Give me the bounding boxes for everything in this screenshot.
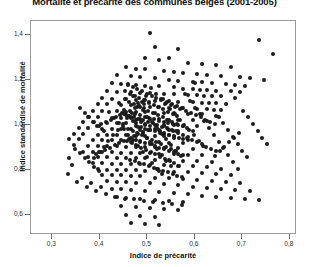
scatter-point: [200, 171, 204, 175]
scatter-point: [219, 94, 223, 98]
scatter-point: [86, 144, 90, 148]
scatter-point: [96, 102, 100, 106]
scatter-point: [148, 206, 152, 210]
scatter-point: [115, 168, 119, 172]
scatter-point: [110, 187, 114, 191]
scatter-point: [200, 101, 204, 105]
scatter-point: [262, 78, 266, 82]
scatter-point: [128, 92, 132, 96]
scatter-point: [100, 173, 104, 177]
scatter-point: [105, 168, 109, 172]
scatter-point: [233, 96, 237, 100]
scatter-point: [167, 176, 171, 180]
x-tick-label: 0,3: [39, 240, 63, 248]
scatter-point: [227, 140, 231, 144]
scatter-point: [189, 111, 193, 115]
scatter-point: [185, 136, 189, 140]
scatter-point: [219, 167, 223, 171]
scatter-point: [191, 118, 195, 122]
scatter-point: [81, 132, 85, 136]
scatter-point: [132, 197, 136, 201]
scatter-point: [246, 115, 250, 119]
scatter-point: [176, 47, 180, 51]
scatter-point: [226, 128, 230, 132]
scatter-point: [154, 96, 158, 100]
scatter-point: [94, 189, 98, 193]
scatter-point: [195, 159, 199, 163]
scatter-point: [210, 81, 214, 85]
scatter-point: [176, 79, 180, 83]
scatter-point: [110, 81, 114, 85]
scatter-point: [162, 207, 166, 211]
scatter-point: [142, 162, 146, 166]
scatter-point: [134, 181, 138, 185]
scatter-point: [123, 89, 127, 93]
scatter-point: [142, 102, 146, 106]
scatter-point: [167, 78, 171, 82]
scatter-point: [67, 156, 71, 160]
y-axis-label: Indice standardisé de mortalité: [18, 27, 27, 207]
scatter-point: [143, 189, 147, 193]
scatter-point: [104, 192, 108, 196]
scatter-point: [224, 82, 228, 86]
scatter-point: [162, 92, 166, 96]
scatter-point: [102, 129, 106, 133]
scatter-point: [129, 188, 133, 192]
scatter-point: [229, 65, 233, 69]
scatter-point: [134, 168, 138, 172]
scatter-point: [92, 120, 96, 124]
scatter-point: [152, 166, 156, 170]
scatter-point: [115, 133, 119, 137]
scatter-point: [150, 138, 154, 142]
scatter-point: [129, 136, 133, 140]
scatter-point: [158, 155, 162, 159]
scatter-point: [119, 173, 123, 177]
scatter-point: [119, 204, 123, 208]
scatter-point: [89, 181, 93, 185]
scatter-point: [171, 122, 175, 126]
scatter-point: [151, 111, 155, 115]
scatter-point: [257, 198, 261, 202]
scatter-point: [92, 156, 96, 160]
x-tick-mark: [146, 234, 147, 239]
scatter-point: [200, 153, 204, 157]
scatter-point: [110, 97, 114, 101]
scatter-point: [181, 71, 185, 75]
scatter-point: [166, 121, 170, 125]
scatter-point: [138, 75, 142, 79]
scatter-point: [172, 70, 176, 74]
scatter-point: [138, 214, 142, 218]
scatter-point: [110, 150, 114, 154]
scatter-point: [224, 102, 228, 106]
scatter-point: [229, 196, 233, 200]
scatter-point: [157, 58, 161, 62]
scatter-point: [110, 127, 114, 131]
scatter-point: [75, 180, 79, 184]
scatter-point: [67, 137, 71, 141]
scatter-point: [181, 124, 185, 128]
scatter-point: [110, 162, 114, 166]
scatter-point: [219, 108, 223, 112]
scatter-point: [214, 101, 218, 105]
scatter-point: [191, 185, 195, 189]
scatter-point: [195, 72, 199, 76]
scatter-point: [170, 128, 174, 132]
scatter-point: [128, 109, 132, 113]
scatter-point: [168, 159, 172, 163]
scatter-point: [105, 179, 109, 183]
scatter-point: [143, 169, 147, 173]
x-axis-label: Indice de précarité: [30, 251, 296, 260]
scatter-point: [133, 159, 137, 163]
scatter-point: [256, 129, 260, 133]
scatter-point: [190, 138, 194, 142]
x-tick-mark: [99, 234, 100, 239]
scatter-point: [148, 31, 152, 35]
scatter-point: [100, 138, 104, 142]
scatter-point: [153, 134, 157, 138]
scatter-point: [210, 179, 214, 183]
scatter-point: [251, 122, 255, 126]
scatter-point: [99, 185, 103, 189]
scatter-point: [145, 92, 149, 96]
scatter-point: [105, 102, 109, 106]
scatter-point: [173, 105, 177, 109]
